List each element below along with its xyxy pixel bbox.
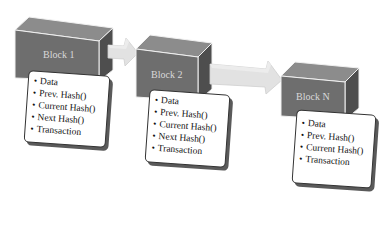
arrow-right-icon — [208, 58, 284, 96]
block-n-field-list: •Data •Prev. Hash() •Current Hash() •Tra… — [292, 109, 377, 188]
block-1-label: Block 1 — [43, 49, 74, 60]
bullet-icon: • — [30, 124, 34, 134]
bullet-icon: • — [301, 130, 305, 140]
block-1-field-list: •Data •Prev. Hash() •Current Hash() •Nex… — [24, 70, 111, 148]
bullet-icon: • — [155, 95, 159, 105]
bullet-icon: • — [300, 142, 304, 152]
bullet-icon: • — [299, 154, 303, 164]
bullet-icon: • — [301, 118, 305, 128]
bullet-icon: • — [31, 112, 35, 122]
block-2-label: Block 2 — [151, 69, 182, 80]
bullet-icon: • — [32, 100, 36, 110]
bullet-icon: • — [151, 143, 155, 153]
block-n-label: Block N — [296, 91, 330, 102]
bullet-icon: • — [154, 107, 158, 117]
bullet-icon: • — [153, 119, 157, 129]
bullet-icon: • — [33, 88, 37, 98]
block-2-field-list: •Data •Prev. Hash() •Current Hash() •Nex… — [145, 89, 231, 167]
bullet-icon: • — [152, 131, 156, 141]
bullet-icon: • — [34, 76, 38, 86]
